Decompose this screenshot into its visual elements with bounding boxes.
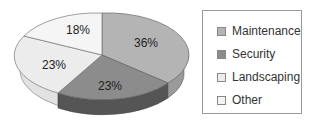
swatch-icon [217, 27, 226, 36]
legend-item-other: Other [217, 93, 262, 107]
chart-legend: Maintenance Security Landscaping Other [202, 10, 302, 114]
label-other: 18% [66, 23, 90, 37]
swatch-icon [217, 73, 226, 82]
legend-label: Maintenance [232, 24, 301, 38]
legend-label: Landscaping [232, 70, 300, 84]
legend-item-maintenance: Maintenance [217, 24, 301, 38]
swatch-icon [217, 50, 226, 59]
legend-item-security: Security [217, 47, 275, 61]
swatch-icon [217, 96, 226, 105]
label-maintenance: 36% [134, 36, 158, 50]
legend-label: Other [232, 93, 262, 107]
label-landscaping: 23% [42, 58, 66, 72]
pie-chart [0, 0, 200, 125]
label-security: 23% [98, 79, 122, 93]
legend-label: Security [232, 47, 275, 61]
legend-item-landscaping: Landscaping [217, 70, 300, 84]
